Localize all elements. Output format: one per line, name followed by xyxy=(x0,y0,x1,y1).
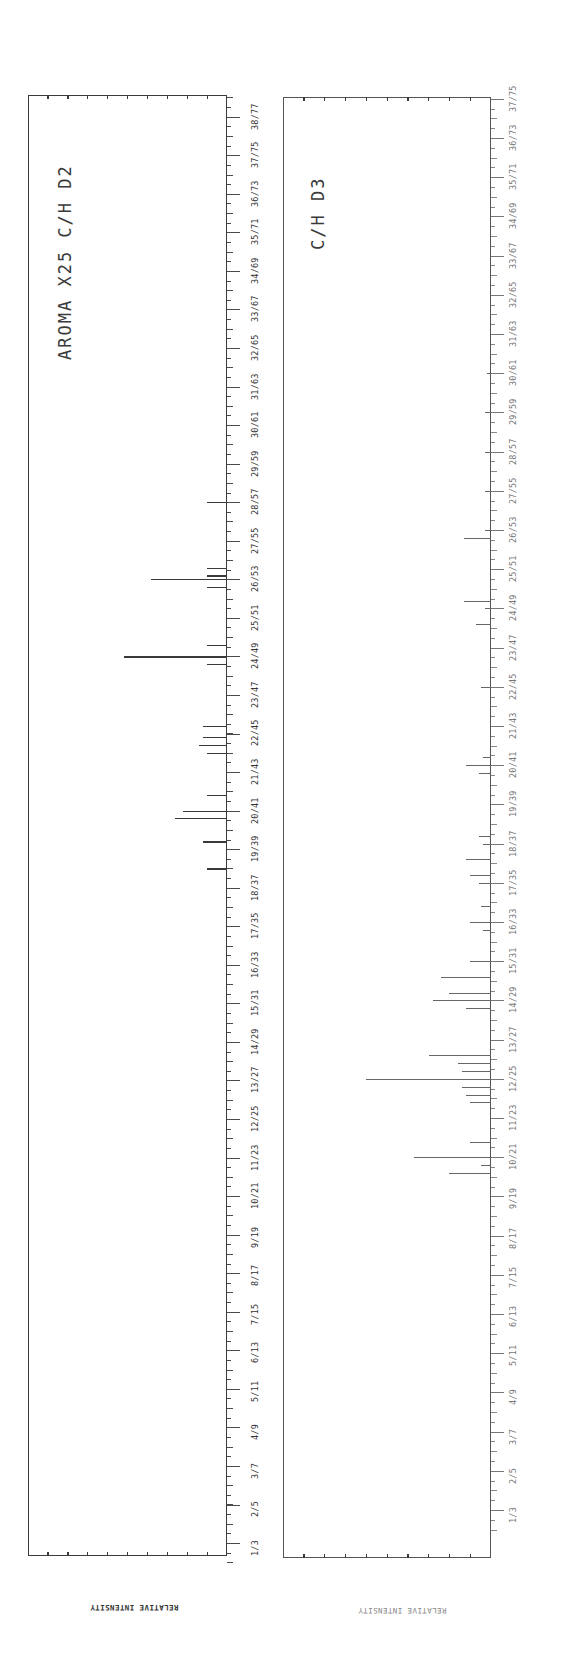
left-chart-title: AROMA X25 C/H D2 xyxy=(55,164,75,360)
mass-axis-label: 35/71 xyxy=(508,164,518,191)
minor-tick xyxy=(227,608,231,609)
minor-tick xyxy=(227,1476,231,1477)
intensity-tick xyxy=(47,95,48,99)
minor-tick xyxy=(227,936,231,937)
minor-tick xyxy=(491,599,495,600)
minor-tick xyxy=(227,1186,231,1187)
major-tick xyxy=(491,844,504,845)
mass-axis-label: 20/41 xyxy=(250,797,260,824)
major-tick xyxy=(491,1236,504,1237)
major-tick xyxy=(491,687,504,688)
major-tick xyxy=(227,734,240,735)
minor-tick xyxy=(227,203,231,204)
minor-tick xyxy=(227,1283,231,1284)
minor-tick xyxy=(227,261,231,262)
minor-tick xyxy=(491,775,495,776)
major-tick xyxy=(227,849,240,850)
major-tick xyxy=(491,373,504,374)
mass-axis-label: 27/55 xyxy=(250,527,260,554)
minor-tick xyxy=(491,785,497,786)
major-tick xyxy=(491,1353,504,1354)
major-tick xyxy=(491,922,504,923)
mass-axis-label: 2/5 xyxy=(508,1468,518,1484)
minor-tick xyxy=(491,1098,497,1099)
minor-tick xyxy=(227,666,231,667)
minor-tick xyxy=(491,305,495,306)
minor-tick xyxy=(227,213,233,214)
minor-tick xyxy=(491,951,495,952)
minor-tick xyxy=(491,863,497,864)
mass-axis-label: 1/3 xyxy=(508,1507,518,1523)
major-tick xyxy=(491,334,504,335)
intensity-tick xyxy=(407,97,408,101)
minor-tick xyxy=(227,1398,231,1399)
minor-tick xyxy=(227,493,231,494)
minor-tick xyxy=(491,540,495,541)
intensity-tick xyxy=(407,1554,408,1558)
minor-tick xyxy=(491,1167,495,1168)
minor-tick xyxy=(491,314,497,315)
mass-axis-label: 26/53 xyxy=(250,566,260,593)
minor-tick xyxy=(227,782,231,783)
mass-axis-label: 37/75 xyxy=(250,142,260,169)
mass-axis-label: 16/33 xyxy=(250,951,260,978)
major-tick xyxy=(227,425,240,426)
minor-tick xyxy=(491,657,495,658)
mass-axis-label: 2/5 xyxy=(250,1501,260,1517)
mass-axis-label: 14/29 xyxy=(250,1028,260,1055)
minor-tick xyxy=(491,1030,495,1031)
intensity-tick xyxy=(428,97,429,101)
major-tick xyxy=(227,155,240,156)
spectrum-peak xyxy=(449,1173,491,1174)
minor-tick xyxy=(227,242,231,243)
minor-tick xyxy=(491,501,495,502)
right-chart-title: C/H D3 xyxy=(308,177,328,250)
minor-tick xyxy=(491,971,495,972)
intensity-tick xyxy=(207,95,208,99)
minor-tick xyxy=(227,676,233,677)
minor-tick xyxy=(491,1490,497,1491)
minor-tick xyxy=(491,158,497,159)
intensity-tick xyxy=(470,97,471,101)
major-tick xyxy=(491,1079,504,1080)
minor-tick xyxy=(227,1264,231,1265)
major-tick xyxy=(491,1000,504,1001)
mass-axis-label: 19/39 xyxy=(508,791,518,818)
minor-tick xyxy=(227,281,231,282)
minor-tick xyxy=(491,481,495,482)
minor-tick xyxy=(491,579,495,580)
spectrum-peak xyxy=(183,811,227,812)
mass-axis-label: 37/75 xyxy=(508,85,518,112)
intensity-tick xyxy=(187,95,188,99)
minor-tick xyxy=(227,444,233,445)
minor-tick xyxy=(227,1302,231,1303)
intensity-tick xyxy=(449,1554,450,1558)
minor-tick xyxy=(227,1167,231,1168)
mass-axis-label: 17/35 xyxy=(250,913,260,940)
spectrum-peak xyxy=(466,1008,491,1009)
minor-tick xyxy=(491,1206,495,1207)
major-tick xyxy=(491,1432,504,1433)
minor-tick xyxy=(227,840,231,841)
minor-tick xyxy=(227,1418,231,1419)
major-tick xyxy=(491,99,504,100)
minor-tick xyxy=(227,1524,233,1525)
minor-tick xyxy=(227,97,233,98)
mass-axis-label: 30/61 xyxy=(508,360,518,387)
mass-axis-label: 15/31 xyxy=(250,990,260,1017)
mass-axis-label: 3/7 xyxy=(250,1463,260,1479)
minor-tick xyxy=(227,377,231,378)
minor-tick xyxy=(491,285,495,286)
minor-tick xyxy=(227,946,233,947)
minor-tick xyxy=(491,814,495,815)
intensity-tick xyxy=(387,97,388,101)
minor-tick xyxy=(491,991,495,992)
spectrum-peak xyxy=(481,1165,491,1166)
intensity-tick xyxy=(67,1552,68,1556)
major-tick xyxy=(227,1350,240,1351)
minor-tick xyxy=(227,1100,233,1101)
spectrum-peak xyxy=(207,502,227,503)
major-tick xyxy=(227,1080,240,1081)
minor-tick xyxy=(491,1383,495,1384)
minor-tick xyxy=(227,406,233,407)
